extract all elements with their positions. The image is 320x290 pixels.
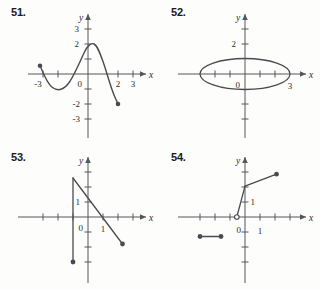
origin-label-52: 0 [236, 80, 241, 90]
y-axis-label-54: y [235, 156, 241, 166]
x-axis-arrow [300, 214, 306, 220]
graph-52: 3 2 0 x y [160, 0, 320, 145]
lower-segment-right-dot-54 [219, 234, 224, 239]
origin-label-51: 0 [78, 79, 83, 89]
x-label-1-53: 1 [101, 224, 106, 234]
y-axis-arrow [85, 157, 91, 163]
problem-panel-54: 54. [160, 145, 320, 290]
y-axis-arrow [242, 157, 248, 163]
y-axis-label-53: y [78, 156, 84, 166]
x-label-2-51: 2 [116, 79, 121, 89]
gentle-segment-54 [245, 174, 277, 186]
endpoint-right-51 [116, 102, 121, 107]
y-axis-arrow [242, 14, 248, 20]
y-label-2-52: 2 [232, 39, 237, 49]
x-axis-label-52: x [308, 70, 314, 80]
origin-label-53: 0 [79, 223, 84, 233]
y-label-1-53: 1 [76, 197, 81, 207]
x-axis-arrow [300, 71, 306, 77]
y-label-1-54: 1 [251, 197, 256, 207]
y-axis-label-51: y [78, 13, 84, 23]
endpoint-right-53 [120, 242, 125, 247]
worksheet-page: 51. -3 2 [0, 0, 320, 290]
x-axis-label-54: x [308, 213, 314, 223]
origin-label-54: 0 [237, 225, 242, 235]
x-axis-arrow [140, 71, 146, 77]
y-label-neg3-51: -3 [73, 114, 81, 124]
graph-51: -3 2 3 3 2 -2 -3 0 x y [0, 0, 160, 145]
graph-54: 1 1 0 x y [160, 145, 320, 290]
x-label-1-54: 1 [258, 226, 263, 236]
y-axis-arrow [85, 14, 91, 20]
endpoint-right-54 [274, 172, 279, 177]
endpoint-bottom-53 [71, 260, 76, 265]
y-label-2-51: 2 [75, 39, 80, 49]
x-axis-label-53: x [148, 213, 154, 223]
x-axis-label-51: x [148, 70, 154, 80]
graph-53: 1 1 0 x y [0, 145, 160, 290]
x-label-3-52: 3 [288, 81, 293, 91]
x-axis-arrow [140, 214, 146, 220]
x-label-neg3-51: -3 [34, 79, 42, 89]
problem-panel-53: 53. 1 1 [0, 145, 160, 290]
problem-panel-52: 52. 3 2 0 x y [160, 0, 320, 145]
endpoint-left-51 [38, 63, 43, 68]
y-label-3-51: 3 [75, 24, 80, 34]
problem-panel-51: 51. -3 2 [0, 0, 160, 145]
descending-segment-53 [73, 178, 123, 244]
x-label-3-51: 3 [131, 79, 136, 89]
y-axis-label-52: y [235, 13, 241, 23]
lower-segment-left-dot-54 [198, 234, 203, 239]
open-endpoint-54 [235, 215, 240, 220]
y-label-neg2-51: -2 [73, 99, 81, 109]
